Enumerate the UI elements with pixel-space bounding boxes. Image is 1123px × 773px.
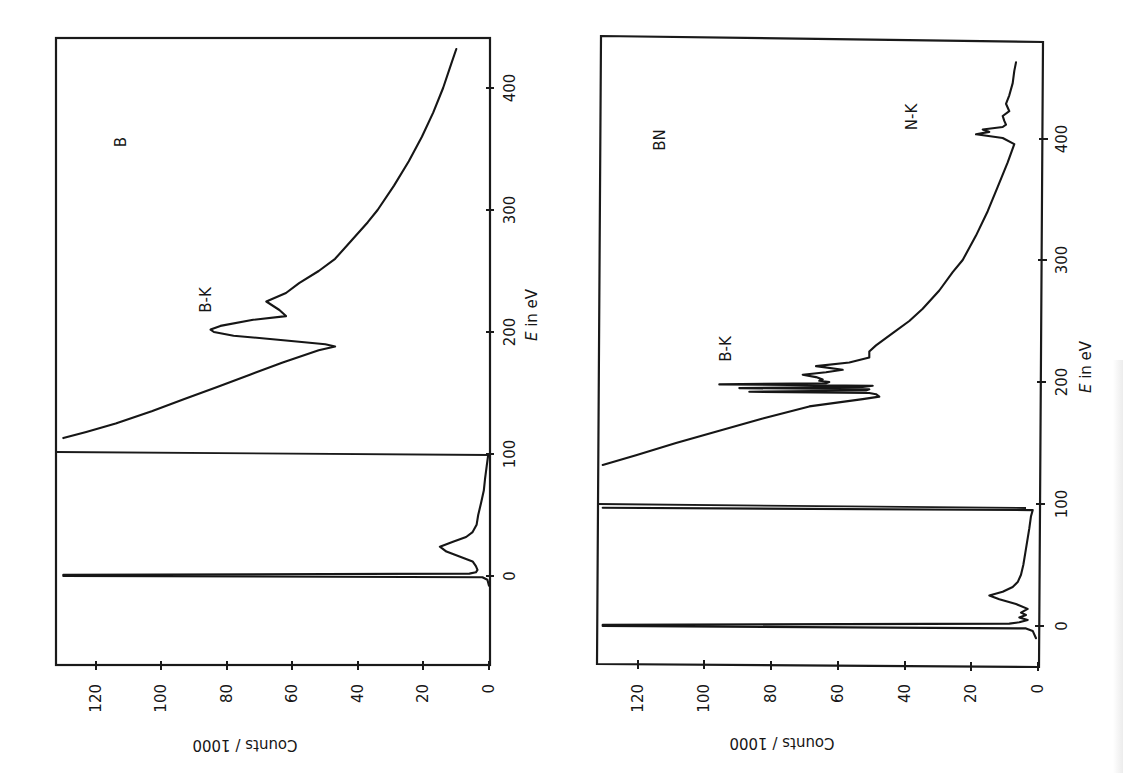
panel-b-energy-axis: 0 100 200 300 400 E in eV <box>486 74 541 581</box>
panel-bn-count-tick-40: 40 <box>896 684 914 703</box>
panel-b-sample-label: B <box>112 137 130 147</box>
panel-bn-coreloss-curve <box>603 62 1016 465</box>
panel-bn-e-tick-0: 0 <box>1053 621 1071 631</box>
panel-bn-e-tick-300: 300 <box>1053 246 1071 275</box>
panel-b-edge-label-bk: B-K <box>197 286 215 313</box>
panel-bn-e-tick-400: 400 <box>1053 125 1071 154</box>
panel-b-e-tick-200: 200 <box>501 318 519 347</box>
panel-b-count-tick-120: 120 <box>87 684 105 713</box>
panel-bn-lowloss-curve <box>603 508 1036 639</box>
panel-bn-e-tick-200: 200 <box>1053 368 1071 397</box>
panel-bn-count-tick-20: 20 <box>962 684 980 703</box>
panel-b-energy-axis-title: E in eV <box>523 288 541 341</box>
panel-bn-counts-axis-title: Counts / 1000 <box>729 734 834 752</box>
panel-b-coreloss-curve <box>63 49 456 438</box>
panel-bn-energy-axis: 0 100 200 300 400 E in eV <box>1035 125 1095 631</box>
panel-b-e-tick-100: 100 <box>501 440 519 469</box>
scan-page-edge <box>1113 360 1123 773</box>
panel-bn-counts-axis: 0 20 40 60 80 100 120 Counts / 1000 <box>629 660 1047 752</box>
panel-b-count-tick-100: 100 <box>152 684 170 713</box>
panel-bn-count-tick-0: 0 <box>1029 684 1047 694</box>
panel-b-e-tick-300: 300 <box>501 196 519 225</box>
panel-b-counts-axis-title: Counts / 1000 <box>192 736 297 754</box>
panel-bn-count-tick-120: 120 <box>629 684 647 713</box>
panel-b-count-tick-0: 0 <box>480 684 498 694</box>
panel-b-count-tick-80: 80 <box>218 684 236 703</box>
panel-bn-edge-label-nk: N-K <box>903 103 921 131</box>
panel-b-lowloss-curve <box>63 454 489 586</box>
panel-bn: 0 100 200 300 400 E in eV 0 20 40 60 <box>597 36 1095 752</box>
eels-spectra-figure: 0 100 200 300 400 E in eV 0 20 40 60 <box>0 0 1123 773</box>
figure-canvas: 0 100 200 300 400 E in eV 0 20 40 60 <box>0 0 1123 773</box>
panel-b-count-tick-40: 40 <box>349 684 367 703</box>
panel-b-count-tick-60: 60 <box>283 684 301 703</box>
panel-b-e-tick-0: 0 <box>501 571 519 581</box>
panel-bn-energy-axis-title: E in eV <box>1077 340 1095 393</box>
panel-b-counts-axis: 0 20 40 60 80 100 120 Counts / 1000 <box>87 661 498 754</box>
panel-bn-sample-label: BN <box>651 129 669 151</box>
panel-bn-count-tick-100: 100 <box>695 684 713 713</box>
panel-b-scale-marker <box>56 452 490 455</box>
panel-bn-edge-label-bk: B-K <box>717 335 735 362</box>
panel-b-count-tick-20: 20 <box>414 684 432 703</box>
panel-bn-e-tick-100: 100 <box>1053 490 1071 519</box>
panel-bn-count-tick-80: 80 <box>762 684 780 703</box>
panel-b: 0 100 200 300 400 E in eV 0 20 40 60 <box>56 38 541 754</box>
panel-bn-count-tick-60: 60 <box>829 684 847 703</box>
panel-b-e-tick-400: 400 <box>501 74 519 103</box>
